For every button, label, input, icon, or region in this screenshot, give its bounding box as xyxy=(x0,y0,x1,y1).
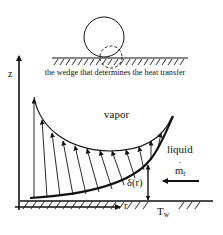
bubble-inset xyxy=(52,17,188,68)
mass-flow-dot: ˙ xyxy=(178,161,181,171)
liquid-label: liquid xyxy=(167,144,193,155)
wedge-heat-transfer-diagram: the wedge that determines the heat trans… xyxy=(0,0,223,235)
film-thickness-label: δ(r) xyxy=(127,178,142,189)
wall-hatching xyxy=(23,202,200,209)
r-axis-label: r xyxy=(124,201,127,211)
mass-flow-subscript: r xyxy=(183,169,186,178)
wall-temp-subscript: w xyxy=(164,210,169,219)
mass-flow-label: ˙mr xyxy=(175,166,186,178)
z-axis-label: z xyxy=(8,69,12,79)
bubble-circle xyxy=(84,17,124,57)
vapor-label: vapor xyxy=(104,109,129,120)
wall-temperature-label: Tw xyxy=(157,206,169,219)
caption-text: the wedge that determines the heat trans… xyxy=(40,69,190,77)
wall-temp-symbol: T xyxy=(157,205,164,217)
